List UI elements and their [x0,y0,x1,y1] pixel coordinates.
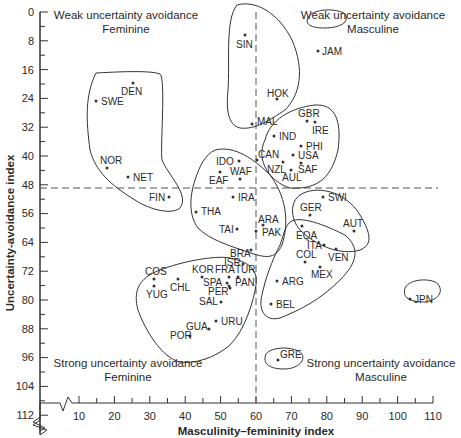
point-MAL: MAL [251,116,279,127]
svg-text:COS: COS [145,266,167,277]
cluster-singapore-hongkong [227,4,299,128]
svg-text:ARG: ARG [282,276,304,287]
hofstede-scatter-chart: 0 8 16 24 32 40 48 56 64 72 80 88 96 104… [0,0,461,438]
svg-text:POR: POR [170,330,192,341]
svg-text:CAN: CAN [258,149,279,160]
svg-text:SAL: SAL [199,296,218,307]
svg-text:NOR: NOR [100,155,122,166]
y-tick-label: 24 [22,92,34,104]
y-axis-title: Uncertainty-avoidance index [4,154,16,311]
svg-text:SWE: SWE [101,96,124,107]
y-tick-label: 48 [22,179,34,191]
point-ARA: ARA [258,214,279,227]
point-PAK: PAK [255,227,282,238]
y-tick-label: 72 [22,265,34,277]
svg-text:KOR: KOR [192,264,214,275]
x-tick-label: 30 [144,410,156,422]
point-BEL: BEL [270,299,296,310]
divider-lines [40,12,438,403]
chart-svg: 0 8 16 24 32 40 48 56 64 72 80 88 96 104… [0,0,461,438]
x-tick-label: 60 [250,410,262,422]
y-tick-label: 96 [22,351,34,363]
point-URU: URU [215,316,243,327]
svg-text:THA: THA [201,206,221,217]
point-FIN: FIN [149,192,171,203]
svg-text:COL: COL [296,249,317,260]
quadrant-top-right-line1: Weak uncertainty avoidance [301,9,445,21]
y-tick-label: 8 [28,35,34,47]
point-GRE: GRE [277,349,303,362]
svg-text:SWI: SWI [328,192,347,203]
svg-text:TUR: TUR [235,264,256,275]
point-HOK: HOK [267,88,289,101]
svg-text:AUT: AUT [343,218,363,229]
svg-text:MEX: MEX [311,269,333,280]
point-CHL: CHL [170,278,190,294]
point-NOR: NOR [100,155,122,170]
y-tick-label: 64 [22,236,34,248]
point-DEN: DEN [121,82,142,98]
svg-text:VEN: VEN [328,252,349,263]
data-points: DEN SWE NOR NET FIN SIN JAM HOK MAL GBR … [95,34,433,362]
svg-text:GER: GER [300,202,322,213]
point-JPN: JPN [409,294,433,305]
point-YUG: YUG [146,285,168,301]
y-tick-label: 0 [28,6,34,18]
quadrant-bottom-left-line1: Strong uncertainty avoidance [54,357,203,369]
point-IRE: IRE [312,121,329,137]
svg-text:JAM: JAM [322,46,342,57]
svg-text:MAL: MAL [257,116,278,127]
svg-text:HOK: HOK [267,88,289,99]
x-tick-label: 40 [179,410,191,422]
svg-text:PAN: PAN [235,277,255,288]
x-tick-label: 110 [424,410,442,422]
y-tick-label: 40 [22,150,34,162]
point-EQA: EQA [296,225,317,242]
svg-text:JPN: JPN [414,294,433,305]
x-tick-label: 70 [285,410,297,422]
quadrant-bottom-right-line1: Strong uncertainty avoidance [307,357,456,369]
y-tick-label: 112 [16,409,34,421]
x-tick-label: 10 [73,410,85,422]
svg-text:EAF: EAF [209,175,228,186]
point-VEN: VEN [328,248,349,264]
point-CAN: CAN [256,149,280,162]
svg-text:GBR: GBR [298,108,320,119]
svg-text:URU: URU [221,316,243,327]
x-tick-label: 20 [108,410,120,422]
quadrant-top-left-line2: Feminine [102,23,149,35]
svg-text:CHL: CHL [170,282,190,293]
point-IND: IND [273,131,297,142]
point-SWE: SWE [95,96,125,107]
y-tick-label: 104 [16,380,34,392]
point-NET: NET [127,172,154,183]
point-POR: POR [170,330,192,341]
svg-text:SIN: SIN [236,39,253,50]
x-tick-labels: 10 20 30 40 50 60 70 80 90 100 110 [73,410,442,422]
svg-text:TAI: TAI [219,224,234,235]
y-tick-labels: 0 8 16 24 32 40 48 56 64 72 80 88 96 104… [16,6,34,421]
point-SIN: SIN [236,34,253,51]
svg-text:NET: NET [133,172,153,183]
point-COS: COS [145,266,167,281]
y-tick-label: 16 [22,64,34,76]
point-IRA: IRA [232,192,256,203]
point-JAM: JAM [317,46,343,57]
quadrant-bottom-right-line2: Masculine [355,371,407,383]
svg-text:DEN: DEN [121,86,142,97]
point-SWI: SWI [322,192,347,203]
svg-text:YUG: YUG [146,289,168,300]
svg-text:WAF: WAF [230,166,252,177]
svg-text:BEL: BEL [276,299,295,310]
point-USA: USA [292,150,319,161]
quadrant-bottom-left-line2: Feminine [104,371,151,383]
y-tick-label: 80 [22,294,34,306]
x-tick-label: 50 [214,410,226,422]
point-SAL: SAL [199,296,223,307]
point-ARG: ARG [276,276,304,287]
svg-text:IND: IND [279,131,296,142]
point-COL: COL [296,249,317,264]
point-GER: GER [300,202,322,217]
y-axis-line [33,12,45,431]
quadrant-top-right-line2: Masculine [347,23,399,35]
